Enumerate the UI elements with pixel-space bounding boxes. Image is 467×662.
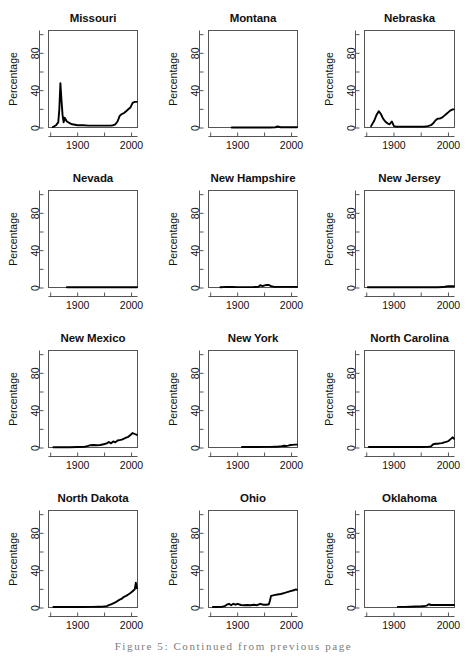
panel-new-mexico: New Mexico04080Percentage19002000 bbox=[0, 320, 160, 480]
plot-area: 04080Percentage19002000 bbox=[320, 320, 467, 480]
y-tick-label: 40 bbox=[189, 565, 201, 577]
x-tick-label: 1900 bbox=[66, 139, 90, 151]
figure-caption-text: Figure 5: Continued from previous page bbox=[115, 640, 353, 652]
y-tick-label: 0 bbox=[345, 605, 357, 611]
plot-box bbox=[49, 191, 138, 288]
plot-box bbox=[49, 351, 138, 448]
y-tick-label: 0 bbox=[189, 285, 201, 291]
x-tick-label: 2000 bbox=[437, 139, 461, 151]
x-tick-label: 1900 bbox=[382, 139, 406, 151]
y-tick-label: 80 bbox=[345, 527, 357, 539]
y-tick-label: 40 bbox=[345, 85, 357, 97]
plot-box bbox=[49, 511, 138, 608]
x-tick-label: 2000 bbox=[280, 299, 304, 311]
plot-area: 04080Percentage19002000 bbox=[320, 160, 467, 320]
panel-oklahoma: Oklahoma04080Percentage19002000 bbox=[320, 480, 467, 640]
x-tick-label: 2000 bbox=[280, 139, 304, 151]
y-tick-label: 0 bbox=[29, 445, 41, 451]
plot-area: 04080Percentage19002000 bbox=[320, 480, 467, 640]
y-axis-label: Percentage bbox=[167, 532, 179, 586]
x-tick-label: 2000 bbox=[437, 459, 461, 471]
y-axis-label: Percentage bbox=[7, 532, 19, 586]
y-tick-label: 40 bbox=[189, 85, 201, 97]
y-tick-label: 80 bbox=[345, 47, 357, 59]
plot-area: 04080Percentage19002000 bbox=[0, 320, 160, 480]
series-line bbox=[398, 604, 454, 607]
x-tick-label: 1900 bbox=[66, 619, 90, 631]
panel-new-hampshire: New Hampshire04080Percentage19002000 bbox=[160, 160, 320, 320]
x-tick-label: 1900 bbox=[382, 459, 406, 471]
y-tick-label: 0 bbox=[345, 125, 357, 131]
y-tick-label: 0 bbox=[345, 445, 357, 451]
series-line bbox=[53, 83, 137, 127]
x-tick-label: 2000 bbox=[280, 459, 304, 471]
y-tick-label: 0 bbox=[189, 125, 201, 131]
y-tick-label: 0 bbox=[29, 605, 41, 611]
series-line bbox=[220, 285, 297, 287]
y-tick-label: 80 bbox=[345, 207, 357, 219]
series-line bbox=[368, 286, 454, 287]
x-tick-label: 2000 bbox=[437, 619, 461, 631]
panel-grid: Missouri04080Percentage19002000Montana04… bbox=[0, 0, 467, 626]
plot-box bbox=[209, 351, 298, 448]
y-axis-label: Percentage bbox=[167, 212, 179, 266]
plot-area: 04080Percentage19002000 bbox=[160, 320, 320, 480]
y-tick-label: 80 bbox=[189, 367, 201, 379]
y-tick-label: 80 bbox=[29, 47, 41, 59]
x-tick-label: 2000 bbox=[120, 619, 144, 631]
y-tick-label: 40 bbox=[29, 85, 41, 97]
panel-missouri: Missouri04080Percentage19002000 bbox=[0, 0, 160, 160]
x-tick-label: 1900 bbox=[382, 299, 406, 311]
y-tick-label: 80 bbox=[345, 367, 357, 379]
panel-nevada: Nevada04080Percentage19002000 bbox=[0, 160, 160, 320]
series-line bbox=[371, 109, 454, 126]
y-tick-label: 80 bbox=[189, 47, 201, 59]
series-line bbox=[53, 583, 137, 607]
panel-new-jersey: New Jersey04080Percentage19002000 bbox=[320, 160, 467, 320]
y-tick-label: 40 bbox=[345, 245, 357, 257]
plot-box bbox=[209, 31, 298, 128]
y-axis-label: Percentage bbox=[323, 212, 335, 266]
y-tick-label: 80 bbox=[29, 527, 41, 539]
x-tick-label: 1900 bbox=[226, 619, 250, 631]
y-axis-label: Percentage bbox=[323, 532, 335, 586]
y-axis-label: Percentage bbox=[7, 52, 19, 106]
x-tick-label: 1900 bbox=[66, 299, 90, 311]
plot-area: 04080Percentage19002000 bbox=[160, 0, 320, 160]
y-tick-label: 40 bbox=[345, 565, 357, 577]
y-tick-label: 80 bbox=[189, 527, 201, 539]
y-tick-label: 0 bbox=[29, 125, 41, 131]
x-tick-label: 2000 bbox=[280, 619, 304, 631]
plot-box bbox=[365, 191, 455, 288]
plot-area: 04080Percentage19002000 bbox=[160, 480, 320, 640]
plot-area: 04080Percentage19002000 bbox=[0, 0, 160, 160]
plot-area: 04080Percentage19002000 bbox=[0, 160, 160, 320]
figure-caption: Figure 5: Continued from previous page bbox=[0, 638, 467, 662]
y-tick-label: 40 bbox=[189, 245, 201, 257]
y-tick-label: 80 bbox=[29, 367, 41, 379]
x-tick-label: 1900 bbox=[66, 459, 90, 471]
panel-ohio: Ohio04080Percentage19002000 bbox=[160, 480, 320, 640]
y-tick-label: 80 bbox=[189, 207, 201, 219]
x-tick-label: 2000 bbox=[120, 459, 144, 471]
y-tick-label: 40 bbox=[29, 405, 41, 417]
y-tick-label: 40 bbox=[189, 405, 201, 417]
series-line bbox=[213, 589, 297, 607]
x-tick-label: 1900 bbox=[382, 619, 406, 631]
x-tick-label: 2000 bbox=[437, 299, 461, 311]
x-tick-label: 2000 bbox=[120, 139, 144, 151]
series-line bbox=[369, 437, 454, 447]
y-axis-label: Percentage bbox=[323, 372, 335, 426]
panel-north-dakota: North Dakota04080Percentage19002000 bbox=[0, 480, 160, 640]
plot-box bbox=[365, 511, 455, 608]
plot-area: 04080Percentage19002000 bbox=[320, 0, 467, 160]
series-line bbox=[53, 433, 137, 447]
y-axis-label: Percentage bbox=[7, 372, 19, 426]
y-tick-label: 40 bbox=[29, 245, 41, 257]
y-axis-label: Percentage bbox=[167, 372, 179, 426]
x-tick-label: 1900 bbox=[226, 299, 250, 311]
plot-box bbox=[365, 351, 455, 448]
y-axis-label: Percentage bbox=[167, 52, 179, 106]
panel-new-york: New York04080Percentage19002000 bbox=[160, 320, 320, 480]
y-axis-label: Percentage bbox=[323, 52, 335, 106]
